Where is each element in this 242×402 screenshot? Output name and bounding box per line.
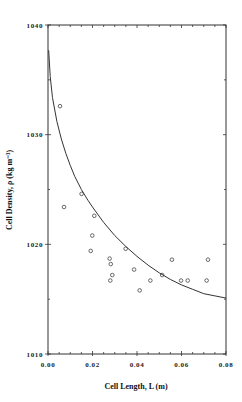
axis-ticks: [45, 25, 226, 356]
data-point: [111, 273, 115, 277]
data-point: [206, 258, 210, 262]
x-tick-label: 0.02: [85, 361, 100, 369]
chart: 0.000.020.040.060.081010102010301040 Cel…: [0, 0, 242, 402]
data-point: [90, 234, 94, 238]
data-point: [58, 104, 62, 108]
fitted-curve: [49, 50, 226, 298]
data-point: [62, 205, 66, 209]
x-tick-label: 0.00: [41, 361, 56, 369]
plot-frame: [48, 25, 226, 354]
y-tick-label: 1010: [27, 351, 43, 359]
data-points: [58, 104, 210, 292]
data-point: [205, 279, 209, 283]
data-point: [124, 247, 128, 251]
data-point: [109, 279, 113, 283]
data-point: [108, 257, 112, 261]
data-point: [138, 289, 142, 293]
data-point: [149, 279, 153, 283]
data-point: [89, 249, 93, 253]
data-point: [92, 214, 96, 218]
x-tick-label: 0.04: [130, 361, 145, 369]
y-tick-label: 1030: [27, 131, 43, 139]
data-point: [186, 279, 190, 283]
x-tick-label: 0.06: [174, 361, 189, 369]
tick-labels: 0.000.020.040.060.081010102010301040: [27, 22, 234, 370]
y-axis-label: Cell Density, ρ (kg m⁻³): [5, 150, 14, 231]
x-tick-label: 0.08: [219, 361, 234, 369]
data-point: [109, 262, 113, 266]
data-point: [179, 279, 183, 283]
x-axis-label: Cell Length, L (m): [104, 382, 167, 391]
data-point: [170, 258, 174, 262]
data-point: [80, 192, 84, 196]
plot-border: [48, 25, 226, 354]
y-tick-label: 1040: [27, 22, 43, 30]
y-tick-label: 1020: [27, 241, 43, 249]
data-point: [132, 268, 136, 272]
